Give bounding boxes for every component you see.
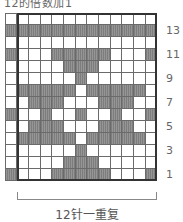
- dark-stitch-cell: [64, 61, 76, 73]
- light-stitch-cell: [122, 13, 134, 25]
- light-stitch-cell: [134, 49, 146, 61]
- light-stitch-cell: [52, 37, 64, 49]
- light-stitch-cell: [5, 133, 17, 145]
- light-stitch-cell: [99, 13, 111, 25]
- light-stitch-cell: [87, 109, 99, 121]
- light-stitch-cell: [122, 145, 134, 157]
- dark-stitch-cell: [99, 121, 111, 133]
- dark-stitch-cell: [122, 121, 134, 133]
- dark-stitch-cell: [146, 169, 157, 181]
- dark-stitch-cell: [76, 169, 87, 181]
- dark-stitch-cell: [76, 49, 87, 61]
- light-stitch-cell: [87, 121, 99, 133]
- light-stitch-cell: [111, 49, 122, 61]
- dark-stitch-cell: [99, 25, 111, 37]
- light-stitch-cell: [41, 169, 52, 181]
- light-stitch-cell: [122, 49, 134, 61]
- dark-stitch-cell: [52, 169, 64, 181]
- light-stitch-cell: [99, 109, 111, 121]
- row-label-9: 9: [166, 73, 173, 85]
- dark-stitch-cell: [76, 109, 87, 121]
- light-stitch-cell: [17, 61, 29, 73]
- light-stitch-cell: [87, 145, 99, 157]
- dark-stitch-cell: [5, 25, 17, 37]
- dark-stitch-cell: [87, 157, 99, 169]
- light-stitch-cell: [17, 13, 29, 25]
- row-label-13: 13: [166, 25, 180, 37]
- light-stitch-cell: [29, 37, 41, 49]
- light-stitch-cell: [146, 37, 157, 49]
- dark-stitch-cell: [134, 25, 146, 37]
- light-stitch-cell: [41, 37, 52, 49]
- light-stitch-cell: [134, 61, 146, 73]
- light-stitch-cell: [29, 157, 41, 169]
- light-stitch-cell: [99, 61, 111, 73]
- row-label-1: 1: [166, 169, 173, 181]
- dark-stitch-cell: [87, 85, 99, 97]
- light-stitch-cell: [76, 37, 87, 49]
- light-stitch-cell: [76, 97, 87, 109]
- light-stitch-cell: [146, 13, 157, 25]
- dark-stitch-cell: [99, 169, 111, 181]
- light-stitch-cell: [134, 13, 146, 25]
- dark-stitch-cell: [52, 25, 64, 37]
- dark-stitch-cell: [5, 109, 17, 121]
- light-stitch-cell: [29, 109, 41, 121]
- dark-stitch-cell: [76, 25, 87, 37]
- light-stitch-cell: [122, 169, 134, 181]
- dark-stitch-cell: [64, 49, 76, 61]
- dark-stitch-cell: [41, 121, 52, 133]
- light-stitch-cell: [146, 85, 157, 97]
- light-stitch-cell: [134, 145, 146, 157]
- light-stitch-cell: [41, 61, 52, 73]
- dark-stitch-cell: [76, 157, 87, 169]
- dark-stitch-cell: [64, 25, 76, 37]
- light-stitch-cell: [146, 145, 157, 157]
- dark-stitch-cell: [111, 85, 122, 97]
- light-stitch-cell: [5, 37, 17, 49]
- row-label-11: 11: [166, 49, 180, 61]
- light-stitch-cell: [5, 157, 17, 169]
- dark-stitch-cell: [17, 25, 29, 37]
- light-stitch-cell: [5, 121, 17, 133]
- light-stitch-cell: [87, 13, 99, 25]
- dark-stitch-cell: [99, 49, 111, 61]
- light-stitch-cell: [111, 169, 122, 181]
- dark-stitch-cell: [17, 85, 29, 97]
- dark-stitch-cell: [99, 97, 111, 109]
- light-stitch-cell: [111, 157, 122, 169]
- light-stitch-cell: [134, 37, 146, 49]
- light-stitch-cell: [146, 73, 157, 85]
- light-stitch-cell: [29, 13, 41, 25]
- light-stitch-cell: [134, 157, 146, 169]
- light-stitch-cell: [99, 37, 111, 49]
- light-stitch-cell: [64, 109, 76, 121]
- light-stitch-cell: [146, 97, 157, 109]
- light-stitch-cell: [134, 169, 146, 181]
- light-stitch-cell: [5, 85, 17, 97]
- dark-stitch-cell: [111, 25, 122, 37]
- light-stitch-cell: [99, 73, 111, 85]
- dark-stitch-cell: [41, 97, 52, 109]
- light-stitch-cell: [41, 49, 52, 61]
- light-stitch-cell: [17, 97, 29, 109]
- light-stitch-cell: [5, 61, 17, 73]
- light-stitch-cell: [52, 61, 64, 73]
- dark-stitch-cell: [41, 109, 52, 121]
- grid-top-edge: [5, 13, 17, 14]
- dark-stitch-cell: [87, 133, 99, 145]
- light-stitch-cell: [5, 145, 17, 157]
- dark-stitch-cell: [146, 25, 157, 37]
- dark-stitch-cell: [29, 97, 41, 109]
- light-stitch-cell: [122, 37, 134, 49]
- dark-stitch-cell: [122, 133, 134, 145]
- light-stitch-cell: [134, 109, 146, 121]
- light-stitch-cell: [64, 73, 76, 85]
- light-stitch-cell: [76, 13, 87, 25]
- light-stitch-cell: [29, 61, 41, 73]
- dark-stitch-cell: [111, 97, 122, 109]
- dark-stitch-cell: [29, 85, 41, 97]
- dark-stitch-cell: [5, 49, 17, 61]
- light-stitch-cell: [29, 169, 41, 181]
- dark-stitch-cell: [87, 61, 99, 73]
